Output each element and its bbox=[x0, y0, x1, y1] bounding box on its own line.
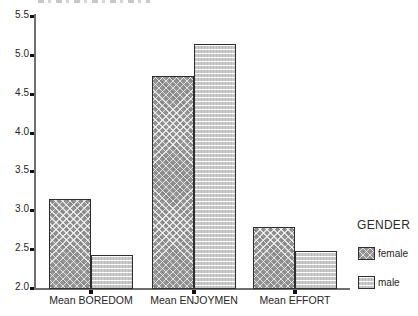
y-tick-label: 2.0 bbox=[2, 281, 29, 293]
y-tick-label: 3.0 bbox=[2, 203, 29, 215]
legend-title: GENDER bbox=[357, 218, 410, 232]
legend-label-male: male bbox=[378, 276, 400, 289]
y-tick-mark bbox=[30, 209, 34, 212]
y-tick-mark bbox=[30, 93, 34, 96]
bar-female-mean-enjoymen bbox=[152, 76, 194, 289]
y-tick-label: 4.0 bbox=[2, 126, 29, 138]
cropped-title-remnant bbox=[38, 0, 150, 3]
bar-male-mean-enjoymen bbox=[194, 44, 236, 289]
x-category-label: Mean ENJOYMEN bbox=[139, 294, 249, 306]
y-axis-line bbox=[34, 14, 36, 290]
y-tick-label: 3.5 bbox=[2, 164, 29, 176]
y-tick-mark bbox=[30, 15, 34, 18]
y-tick-label: 2.5 bbox=[2, 242, 29, 254]
x-category-label: Mean EFFORT bbox=[240, 294, 350, 306]
bar-chart: 5.55.04.54.03.53.02.52.0 Mean BOREDOMMea… bbox=[0, 0, 418, 316]
y-tick-mark bbox=[30, 248, 34, 251]
x-category-label: Mean BOREDOM bbox=[36, 294, 146, 306]
bar-female-mean-boredom bbox=[49, 199, 91, 289]
y-tick-label: 5.5 bbox=[2, 9, 29, 21]
bar-male-mean-boredom bbox=[91, 255, 133, 289]
y-tick-label: 4.5 bbox=[2, 87, 29, 99]
y-tick-mark bbox=[30, 132, 34, 135]
y-tick-mark bbox=[30, 170, 34, 173]
y-tick-label: 5.0 bbox=[2, 48, 29, 60]
bar-female-mean-effort bbox=[253, 227, 295, 289]
y-tick-mark bbox=[30, 287, 34, 290]
legend-swatch-female bbox=[358, 247, 375, 260]
legend-label-female: female bbox=[378, 247, 408, 260]
y-tick-mark bbox=[30, 54, 34, 57]
bar-male-mean-effort bbox=[295, 251, 337, 289]
legend-swatch-male bbox=[358, 276, 375, 289]
